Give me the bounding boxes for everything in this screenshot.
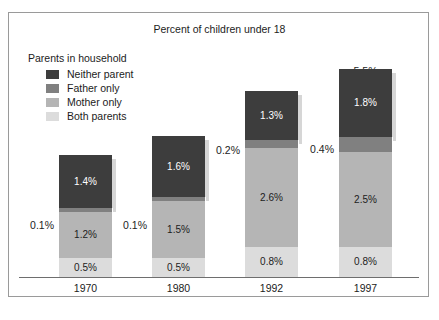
segment-mother-only-1997[interactable]: 2.5% [338, 152, 393, 247]
bar-1997[interactable]: 1.8% 2.5% 0.8% [338, 69, 393, 277]
segment-label-both-parents-1970: 0.5% [74, 263, 97, 273]
segment-label-mother-only-1997: 2.5% [354, 195, 377, 205]
x-tick-label-1992: 1992 [244, 282, 299, 294]
segment-neither-parent-1980[interactable]: 1.6% [151, 136, 206, 197]
outside-label-father-only-1980: 0.1% [111, 219, 147, 231]
bar-shadow-1970 [112, 159, 116, 212]
segment-neither-parent-1970[interactable]: 1.4% [58, 155, 113, 208]
segment-father-only-1992[interactable] [244, 140, 299, 148]
segment-mother-only-1992[interactable]: 2.6% [244, 148, 299, 247]
x-tick-label-1980: 1980 [151, 282, 206, 294]
outside-label-father-only-1992: 0.2% [204, 144, 240, 156]
bar-1992[interactable]: 1.3% 2.6% 0.8% [244, 91, 299, 277]
segment-neither-parent-1992[interactable]: 1.3% [244, 91, 299, 140]
segment-label-neither-parent-1992: 1.3% [260, 111, 283, 121]
segment-both-parents-1992[interactable]: 0.8% [244, 247, 299, 277]
bar-1970[interactable]: 1.4% 1.2% 0.5% [58, 155, 113, 277]
segment-label-mother-only-1970: 1.2% [74, 230, 97, 240]
bar-shadow-1992 [298, 95, 302, 144]
x-axis-line [19, 277, 419, 278]
segment-neither-parent-1997[interactable]: 1.8% [338, 69, 393, 137]
segment-label-both-parents-1992: 0.8% [260, 257, 283, 267]
clipped-header-strip [0, 0, 439, 11]
segment-label-mother-only-1980: 1.5% [167, 225, 190, 235]
bar-1980[interactable]: 1.6% 1.5% 0.5% [151, 136, 206, 277]
segment-label-mother-only-1992: 2.6% [260, 193, 283, 203]
bar-shadow-1997 [392, 73, 396, 141]
segment-label-neither-parent-1980: 1.6% [167, 162, 190, 172]
segment-mother-only-1970[interactable]: 1.2% [58, 212, 113, 258]
segment-label-neither-parent-1997: 1.8% [354, 98, 377, 108]
segment-both-parents-1980[interactable]: 0.5% [151, 258, 206, 277]
x-tick-label-1970: 1970 [58, 282, 113, 294]
segment-label-both-parents-1980: 0.5% [167, 263, 190, 273]
segment-label-neither-parent-1970: 1.4% [74, 177, 97, 187]
outside-label-father-only-1970: 0.1% [18, 219, 54, 231]
segment-mother-only-1980[interactable]: 1.5% [151, 201, 206, 258]
segment-label-both-parents-1997: 0.8% [354, 257, 377, 267]
segment-both-parents-1970[interactable]: 0.5% [58, 258, 113, 277]
clipped-header-text [120, 0, 123, 1]
segment-both-parents-1997[interactable]: 0.8% [338, 247, 393, 277]
segment-father-only-1997[interactable] [338, 137, 393, 152]
x-tick-label-1997: 1997 [338, 282, 393, 294]
outside-label-father-only-1997: 0.4% [298, 143, 334, 155]
chart-frame: Percent of children under 18 Parents in … [8, 12, 429, 297]
plot-area: 3.2% 0.1% 1.4% 1.2% 0.5% 1970 3.6% 0.1% … [9, 13, 430, 298]
